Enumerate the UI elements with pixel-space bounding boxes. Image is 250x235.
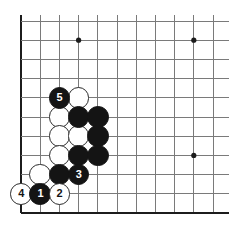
star-point-upper-right: [191, 38, 196, 43]
go-diagram: 53412: [0, 0, 250, 235]
stone-move-number: 4: [18, 188, 24, 199]
stone-b-c5r7[interactable]: [87, 125, 109, 147]
stone-move-number: 2: [57, 188, 63, 199]
stone-move-number: 5: [57, 92, 63, 103]
stone-b-c2r10[interactable]: 1: [29, 183, 51, 205]
stone-w-c3r10[interactable]: 2: [49, 183, 71, 205]
star-point-upper-left: [76, 38, 81, 43]
stone-w-c3r7[interactable]: [49, 125, 71, 147]
stone-move-number: 3: [76, 169, 82, 180]
stone-w-c3r8[interactable]: [49, 145, 71, 167]
stone-b-c3r5[interactable]: 5: [49, 87, 71, 109]
stone-move-number: 1: [37, 188, 43, 199]
stone-b-c5r8[interactable]: [87, 145, 109, 167]
star-point-lower-right: [191, 153, 196, 158]
